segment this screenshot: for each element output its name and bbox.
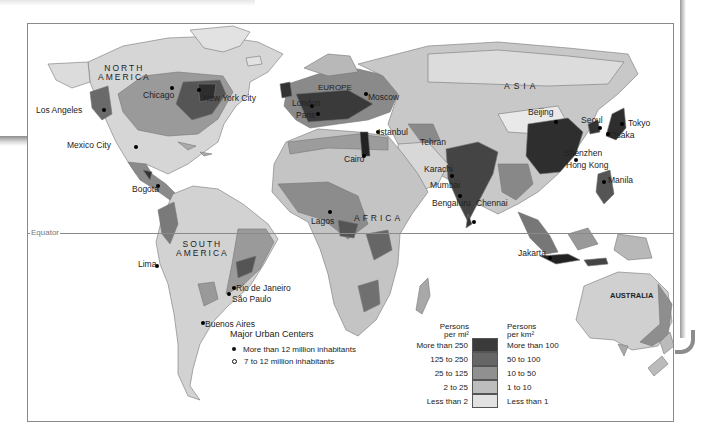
- city-dot: [227, 292, 231, 296]
- city-dot: [554, 120, 558, 124]
- city-label-los-angeles: Los Angeles: [36, 106, 82, 115]
- card-right-edge: [680, 0, 713, 355]
- city-dot: [102, 108, 106, 112]
- city-dot: [472, 220, 476, 224]
- city-label-mumbai: Mumbai: [430, 181, 460, 190]
- city-dot: [620, 122, 624, 126]
- city-dot: [316, 112, 320, 116]
- madagascar-shape: [416, 278, 430, 314]
- density-legend: Persons per mi² Persons per km² More tha…: [406, 323, 646, 418]
- city-label-lima: Lima: [138, 260, 156, 269]
- city-label-chicago: Chicago: [143, 91, 174, 100]
- region-label-europe: EUROPE: [318, 84, 352, 92]
- city-label-buenos-aires: Buenos Aires: [205, 320, 255, 329]
- city-label-istanbul: Istanbul: [378, 128, 408, 137]
- urban-centers-title: Major Urban Centers: [230, 329, 356, 339]
- legend-header-km: Persons per km²: [507, 323, 536, 339]
- city-label-lagos: Lagos: [311, 217, 334, 226]
- legend-swatch: [472, 394, 498, 408]
- region-label-africa: AFRICA: [354, 214, 403, 223]
- card-left-shadow: [0, 136, 27, 146]
- hollow-dot-icon: [232, 359, 237, 364]
- legend-swatch: [472, 338, 498, 352]
- urban-key-row: More than 12 million inhabitants: [230, 343, 356, 355]
- city-label-beijing: Beijing: [528, 108, 554, 117]
- card-corner: [675, 330, 695, 354]
- legend-swatch: [472, 352, 498, 366]
- city-dot: [197, 88, 201, 92]
- city-label-cairo: Cairo: [344, 155, 364, 164]
- region-label-north-america: NORTH AMERICA: [98, 64, 151, 82]
- city-label-manila: Manila: [608, 176, 633, 185]
- city-label-seoul: Seoul: [581, 116, 603, 125]
- city-label-osaka: Osaka: [610, 131, 635, 140]
- legend-header-mi: Persons per mi²: [432, 323, 469, 339]
- city-dot: [450, 174, 454, 178]
- city-label-bogota: Bogotá: [132, 185, 159, 194]
- filled-dot-icon: [232, 347, 236, 351]
- legend-row: 125 to 250 50 to 100: [406, 352, 646, 366]
- urban-centers-key: Major Urban Centers More than 12 million…: [230, 329, 356, 367]
- legend-row: 25 to 125 10 to 50: [406, 366, 646, 380]
- city-label-karachi: Karachi: [424, 165, 453, 174]
- city-dot: [598, 126, 602, 130]
- city-label-jakarta: Jakarta: [518, 249, 546, 258]
- city-dot: [548, 256, 552, 260]
- iceland-shape: [246, 56, 262, 66]
- legend-swatch: [472, 366, 498, 380]
- city-label-bengaluru: Bengaluru: [432, 199, 471, 208]
- city-label-sao-paulo: São Paulo: [232, 295, 271, 304]
- region-label-south-america: SOUTH AMERICA: [176, 240, 229, 258]
- city-label-hong-kong: Hong Kong: [566, 161, 609, 170]
- city-label-chennai: Chennai: [476, 199, 508, 208]
- equator-label: Equator: [30, 228, 60, 237]
- legend-row: 2 to 25 1 to 10: [406, 380, 646, 394]
- city-label-tokyo: Tokyo: [628, 119, 650, 128]
- legend-row: More than 250 More than 100: [406, 338, 646, 352]
- urban-key-row: 7 to 12 million inhabitants: [230, 355, 356, 367]
- city-label-shenzhen: Shenzhen: [564, 149, 602, 158]
- card-edge-shadow: [680, 0, 686, 338]
- population-density-map: Equator NORTH AMERICA SOUTH AMERICA EURO…: [27, 23, 674, 422]
- city-label-mexico-city: Mexico City: [67, 141, 111, 150]
- city-label-tehran: Tehran: [420, 138, 446, 147]
- city-dot: [328, 210, 332, 214]
- legend-row: Less than 2 Less than 1: [406, 394, 646, 408]
- city-label-paris: Paris: [296, 111, 315, 120]
- card-top-shadow: [0, 0, 255, 6]
- city-label-london: London: [292, 99, 320, 108]
- city-label-moscow: Moscow: [368, 93, 399, 102]
- region-label-asia: ASIA: [504, 82, 539, 91]
- city-label-new-york: New York City: [203, 94, 256, 103]
- city-dot: [134, 145, 138, 149]
- legend-swatch: [472, 380, 498, 394]
- region-label-australia: AUSTRALIA: [610, 292, 653, 300]
- city-label-rio: Rio de Janeiro: [236, 284, 291, 293]
- city-dot: [602, 180, 606, 184]
- equator-line: [27, 233, 674, 234]
